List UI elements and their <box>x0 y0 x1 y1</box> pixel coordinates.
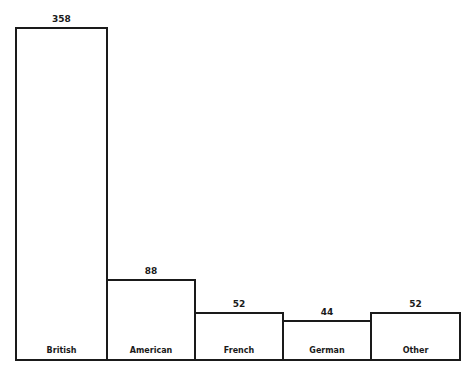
category-label: Other <box>372 346 459 355</box>
bar-german: German <box>282 320 372 361</box>
bar-other: Other <box>370 312 461 361</box>
bar-french: French <box>194 312 284 361</box>
value-label: 52 <box>370 299 461 309</box>
value-label: 52 <box>194 299 284 309</box>
value-label: 358 <box>15 14 108 24</box>
category-label: German <box>284 346 370 355</box>
bar-british: British <box>15 27 108 361</box>
category-label: American <box>108 346 194 355</box>
category-label: British <box>17 346 106 355</box>
bar-american: American <box>106 279 196 361</box>
bar-chart: British358American88French52German44Othe… <box>0 0 468 372</box>
value-label: 44 <box>282 307 372 317</box>
value-label: 88 <box>106 266 196 276</box>
category-label: French <box>196 346 282 355</box>
